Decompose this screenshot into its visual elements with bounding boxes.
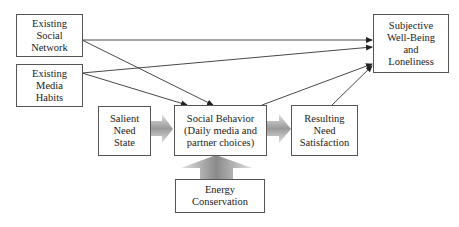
node-label: Subjective Well-Being and Loneliness	[387, 20, 435, 68]
diagram-canvas: Existing Social Network Existing Media H…	[0, 0, 459, 227]
node-social-behavior: Social Behavior (Daily media and partner…	[174, 105, 267, 156]
node-label: Salient Need State	[110, 113, 139, 149]
node-label: Resulting Need Satisfaction	[300, 113, 350, 149]
node-label: Energy Conservation	[192, 184, 248, 208]
block-arrow-energy-to-behavior	[181, 155, 252, 180]
node-label: Social Behavior (Daily media and partner…	[184, 113, 257, 149]
node-existing-social-network: Existing Social Network	[16, 14, 83, 57]
block-arrow-salient-to-behavior	[151, 114, 173, 143]
edge-media-habits-to-social-behavior	[82, 73, 187, 105]
node-energy-conservation: Energy Conservation	[175, 179, 265, 213]
node-salient-need-state: Salient Need State	[98, 106, 151, 156]
edge-social-network-to-social-behavior	[82, 40, 213, 105]
node-subjective-well-being: Subjective Well-Being and Loneliness	[373, 14, 449, 73]
node-label: Existing Media Habits	[32, 68, 67, 104]
block-arrow-behavior-to-satisfaction	[266, 114, 291, 143]
node-label: Existing Social Network	[31, 18, 68, 54]
edge-social-behavior-to-well-being	[262, 64, 372, 105]
node-resulting-need-satisfaction: Resulting Need Satisfaction	[291, 105, 358, 156]
edge-media-habits-to-well-being	[82, 47, 372, 73]
node-existing-media-habits: Existing Media Habits	[16, 64, 83, 107]
